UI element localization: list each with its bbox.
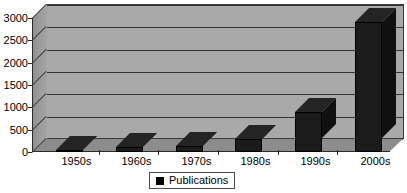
x-axis-tick-mark [158, 150, 159, 155]
plot-back-wall [46, 4, 404, 138]
y-axis: 050010001500200025003000 [0, 0, 30, 152]
bar-front-face [176, 146, 203, 152]
x-axis-tick-mark [278, 150, 279, 155]
y-axis-tick-label: 1000 [4, 101, 28, 113]
x-axis-tick-label: 1980s [221, 155, 290, 167]
y-axis-tick-label: 3000 [4, 12, 28, 24]
plot-floor-top-edge [47, 138, 404, 139]
x-axis-tick-label: 1950s [42, 155, 111, 167]
y-axis-tick-label: 500 [10, 124, 28, 136]
bar-1980s [235, 125, 262, 152]
x-axis-tick-label: 2000s [341, 155, 407, 167]
bar-front-face [295, 112, 322, 152]
bar-front-face [235, 139, 262, 152]
x-axis-tick-mark [218, 150, 219, 155]
plot-area [32, 4, 404, 152]
bar-chart: 050010001500200025003000 1950s1960s1970s… [0, 0, 407, 193]
bar-front-face [56, 150, 83, 152]
bar-1990s [295, 98, 322, 152]
gridline [46, 5, 403, 6]
bar-front-face [355, 22, 382, 152]
bar-2000s [355, 8, 382, 152]
x-axis-tick-mark [99, 150, 100, 155]
y-axis-tick-label: 2000 [4, 57, 28, 69]
x-axis-tick-mark [337, 150, 338, 155]
y-axis-tick-label: 1500 [4, 79, 28, 91]
y-axis-tick-label: 2500 [4, 34, 28, 46]
bar-front-face [116, 147, 143, 152]
gridline [46, 72, 403, 73]
chart-legend: Publications [149, 172, 235, 189]
legend-item-label: Publications [169, 175, 228, 186]
legend-swatch-icon [156, 177, 164, 185]
x-axis-tick-label: 1960s [102, 155, 171, 167]
gridline [46, 117, 403, 118]
x-axis-tick-label: 1990s [281, 155, 350, 167]
gridline [46, 27, 403, 28]
gridline [46, 94, 403, 95]
bar-1950s [56, 136, 83, 152]
x-axis: 1950s1960s1970s1980s1990s2000s [32, 155, 404, 171]
bar-1960s [116, 133, 143, 152]
bar-side-face [382, 8, 396, 138]
gridline [46, 50, 403, 51]
bar-1970s [176, 132, 203, 152]
